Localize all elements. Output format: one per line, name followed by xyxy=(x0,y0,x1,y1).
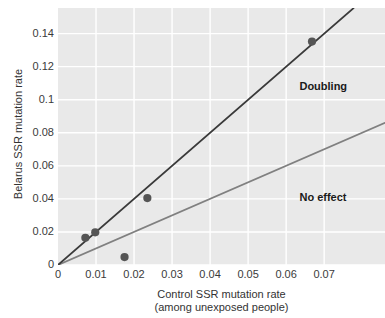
x-tick-label: 0.07 xyxy=(301,269,347,280)
scatter-chart: 00.020.040.060.080.10.120.14 00.010.020.… xyxy=(0,0,385,318)
x-axis-title: Control SSR mutation rate (among unexpos… xyxy=(58,288,385,314)
x-axis-title-line2: (among unexposed people) xyxy=(58,301,385,314)
y-axis-title: Belarus SSR mutation rate xyxy=(12,24,24,244)
x-axis-ticks: 00.010.020.030.040.050.060.07 xyxy=(0,0,385,318)
annotation-no-effect: No effect xyxy=(299,192,346,203)
x-axis-title-line1: Control SSR mutation rate xyxy=(58,288,385,301)
annotation-doubling: Doubling xyxy=(299,81,347,92)
